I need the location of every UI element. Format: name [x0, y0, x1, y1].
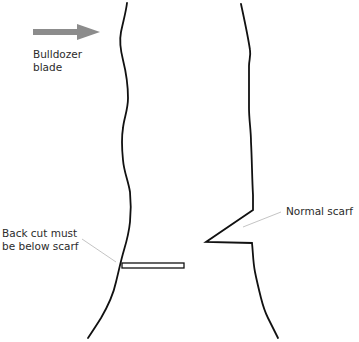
backcut-label-line1: Back cut must	[2, 227, 79, 240]
bulldozer-blade-label: Bulldozer blade	[33, 48, 82, 74]
backcut-label-line2: be below scarf	[2, 240, 79, 253]
bulldozer-label-line2: blade	[33, 61, 82, 74]
bulldozer-label-line1: Bulldozer	[33, 48, 82, 61]
back-cut	[122, 263, 184, 268]
backcut-leader-line	[82, 239, 116, 262]
trunk-left-edge	[88, 3, 131, 338]
trunk-right-edge	[206, 4, 278, 338]
bulldozer-arrow-icon	[33, 24, 100, 40]
back-cut-label: Back cut must be below scarf	[2, 227, 79, 253]
normal-scarf-label: Normal scarf	[286, 205, 353, 218]
scarf-leader-line	[243, 212, 281, 227]
